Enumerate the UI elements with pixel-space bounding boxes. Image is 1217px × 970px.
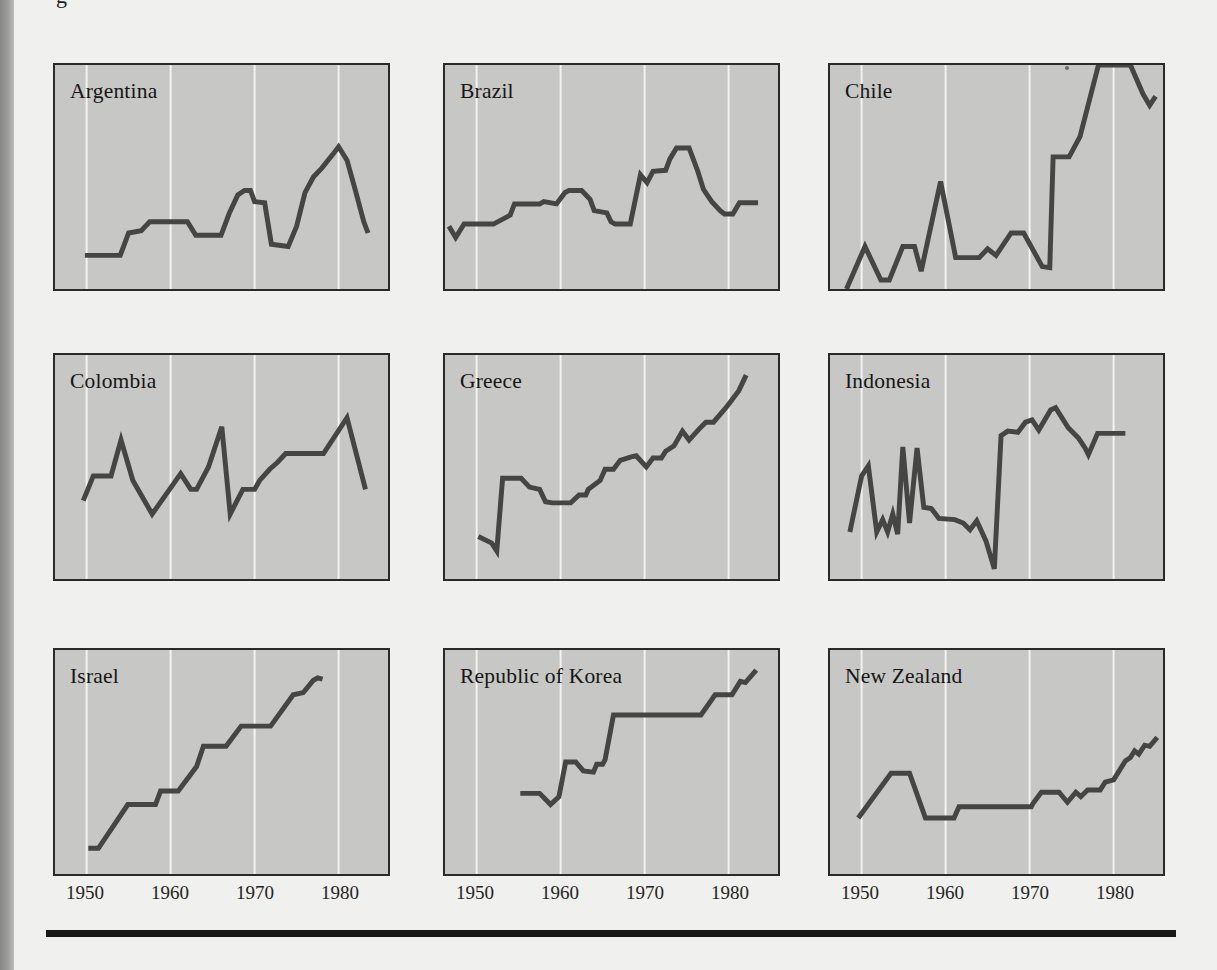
x-tick-1950: 1950	[437, 882, 513, 904]
x-tick-1950: 1950	[47, 882, 123, 904]
x-axis-ticks: 1950 1960 1970 1980	[443, 882, 780, 908]
chart-panel-chile: Chile	[828, 63, 1165, 291]
chart-panel-colombia: Colombia	[53, 353, 390, 581]
chart-panel-republic-of-korea: Republic of Korea 1950 1960 1970 1980	[443, 648, 780, 876]
scan-speck	[1065, 66, 1069, 70]
chart-panel-new-zealand: New Zealand 1950 1960 1970 1980	[828, 648, 1165, 876]
x-axis-ticks: 1950 1960 1970 1980	[53, 882, 390, 908]
country-label: Indonesia	[845, 369, 930, 394]
x-tick-1970: 1970	[992, 882, 1068, 904]
x-axis-ticks: 1950 1960 1970 1980	[828, 882, 1165, 908]
x-tick-1970: 1970	[217, 882, 293, 904]
x-tick-1960: 1960	[132, 882, 208, 904]
country-label: Argentina	[70, 79, 157, 104]
country-label: Chile	[845, 79, 893, 104]
x-tick-1970: 1970	[607, 882, 683, 904]
x-tick-1950: 1950	[822, 882, 898, 904]
x-tick-1960: 1960	[522, 882, 598, 904]
country-label: New Zealand	[845, 664, 962, 689]
page-gutter-shadow	[0, 0, 14, 970]
chart-panel-argentina: Argentina	[53, 63, 390, 291]
scanned-page: g Argentina Brazil Chile Colombia Greece…	[0, 0, 1217, 970]
x-tick-1980: 1980	[1077, 882, 1153, 904]
country-label: Brazil	[460, 79, 514, 104]
cropped-caption-fragment: g	[56, 0, 67, 9]
chart-panel-greece: Greece	[443, 353, 780, 581]
x-tick-1980: 1980	[692, 882, 768, 904]
country-label: Republic of Korea	[460, 664, 622, 689]
country-label: Colombia	[70, 369, 156, 394]
bottom-rule	[46, 930, 1176, 937]
chart-panel-indonesia: Indonesia	[828, 353, 1165, 581]
x-tick-1960: 1960	[907, 882, 983, 904]
chart-panel-brazil: Brazil	[443, 63, 780, 291]
chart-panel-israel: Israel 1950 1960 1970 1980	[53, 648, 390, 876]
country-label: Greece	[460, 369, 522, 394]
x-tick-1980: 1980	[302, 882, 378, 904]
country-label: Israel	[70, 664, 119, 689]
